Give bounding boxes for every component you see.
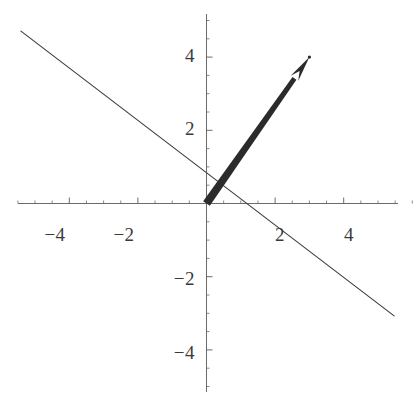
vector-plot-figure: −4−224 42−2−4 bbox=[0, 0, 415, 406]
x-tick-label: 4 bbox=[344, 224, 354, 246]
x-tick-label: 2 bbox=[275, 224, 285, 246]
arrow-shaft bbox=[203, 77, 296, 206]
series-orthogonal-line bbox=[21, 31, 394, 316]
arrow-head bbox=[291, 57, 310, 81]
y-tick-label: 4 bbox=[185, 45, 195, 67]
y-tick-label: −2 bbox=[174, 268, 195, 290]
data-series-group bbox=[21, 31, 394, 316]
arrow-tip-dot bbox=[308, 56, 311, 59]
x-axis-ticks bbox=[18, 198, 412, 204]
x-tick-label: −2 bbox=[113, 224, 134, 246]
x-tick-label: −4 bbox=[44, 224, 65, 246]
plot-canvas bbox=[0, 0, 415, 406]
series-vector-arrow bbox=[203, 56, 311, 206]
y-tick-label: 2 bbox=[185, 118, 195, 140]
y-tick-label: −4 bbox=[174, 342, 195, 364]
axes-group bbox=[18, 14, 412, 392]
